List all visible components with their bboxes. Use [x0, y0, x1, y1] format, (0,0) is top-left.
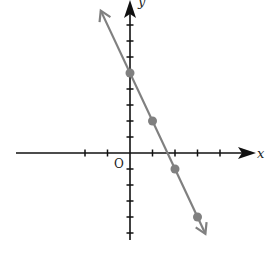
y-axis-label: y	[137, 0, 146, 9]
data-point	[193, 213, 202, 222]
data-point	[171, 165, 180, 174]
x-axis-label: x	[257, 146, 265, 161]
origin-label: O	[114, 157, 124, 171]
axes	[16, 0, 256, 240]
data-point	[126, 69, 135, 78]
coordinate-plane: x y O	[0, 0, 266, 259]
data-point	[148, 117, 157, 126]
axis-ticks	[85, 25, 220, 233]
